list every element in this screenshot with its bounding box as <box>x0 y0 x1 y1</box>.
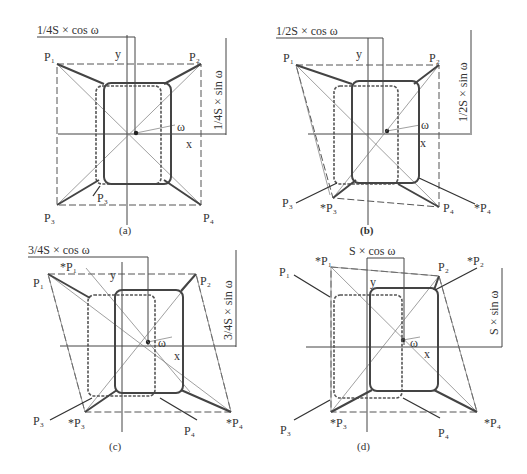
panel-caption: (b) <box>360 224 374 237</box>
y-axis-label: y <box>110 268 116 282</box>
moved-point-label-p3: *P₃ <box>320 201 337 215</box>
angle-label: ω <box>177 120 185 134</box>
y-axis-label: y <box>115 47 121 61</box>
panel-caption: (d) <box>357 440 370 453</box>
diagram-canvas: 1/4S × cos ω 1/4S × sin ω y x ω P₁ P₂ P₃… <box>0 0 527 474</box>
panel-d: S × cos ω S × sin ω y x ω P₁ P₂ P₃ P₄ *P… <box>279 244 502 453</box>
center-point <box>134 131 138 135</box>
point-label-p4: P₄ <box>438 426 449 440</box>
angle-label: ω <box>421 118 429 132</box>
dim-label-vertical: 1/4S × sin ω <box>211 70 225 130</box>
point-label-p3: P₃ <box>280 423 291 437</box>
y-axis-label: y <box>370 275 376 289</box>
dim-label-horizontal: 1/4S × cos ω <box>37 23 99 37</box>
moved-point-label-p4: *P₄ <box>474 201 491 215</box>
angle-ray <box>136 125 175 133</box>
point-label-p1: P₁ <box>283 51 294 65</box>
original-edge <box>296 65 330 195</box>
point-label-p4: P₄ <box>203 211 214 225</box>
moved-point-label-p2: *P₂ <box>467 254 484 268</box>
point-label-p4: P₄ <box>184 424 195 438</box>
x-axis-label: x <box>420 136 426 150</box>
x-axis-label: x <box>186 137 192 151</box>
moved-point-label-p4: *P₄ <box>484 416 501 430</box>
top-edge <box>331 267 439 276</box>
dim-label-vertical: 3/4S × sin ω <box>221 280 235 340</box>
point-label-p2: P₂ <box>189 50 200 64</box>
point-label-p3: P₃ <box>44 211 55 225</box>
dim-label-vertical: S × sin ω <box>487 291 501 335</box>
point-label-p3: P₃ <box>282 196 293 210</box>
diagonal-moved <box>86 268 190 392</box>
point-label-p2: P₂ <box>200 274 211 288</box>
dim-label-horizontal: 3/4S × cos ω <box>28 243 90 257</box>
point-label-p2: P₂ <box>438 260 449 274</box>
moved-point-label-p1: *P₁ <box>315 254 332 268</box>
panel-caption: (c) <box>109 440 122 453</box>
point-label-p1: P₁ <box>279 265 290 279</box>
moved-point-label-p4: *P₄ <box>226 416 243 430</box>
x-axis-label: x <box>174 349 180 363</box>
point-label-p1: P₁ <box>44 50 55 64</box>
dim-label-horizontal: 1/2S × cos ω <box>276 24 338 38</box>
point-label-p2: P₂ <box>429 51 440 65</box>
dim-label-horizontal: S × cos ω <box>349 244 395 258</box>
moved-point-label-p3: *P₃ <box>68 416 85 430</box>
panel-a: 1/4S × cos ω 1/4S × sin ω y x ω P₁ P₂ P₃… <box>37 23 226 237</box>
panel-caption: (a) <box>119 224 132 237</box>
point-label-p3: P₃ <box>33 414 44 428</box>
point-label-p1: P₁ <box>33 276 44 290</box>
dim-label-vertical: 1/2S × sin ω <box>456 62 470 122</box>
angle-ray <box>387 125 420 131</box>
moved-point-label-p3: *P₃ <box>330 416 347 430</box>
panel-c: 3/4S × cos ω 3/4S × sin ω y x ω P₁ P₂ P₃… <box>28 243 243 453</box>
x-axis-label: x <box>424 347 430 361</box>
angle-label: ω <box>158 336 166 350</box>
angle-label: ω <box>410 336 418 350</box>
point-label-p4: P₄ <box>443 201 454 215</box>
y-axis-label: y <box>356 47 362 61</box>
moved-point-label-p1: *P₁ <box>60 260 77 274</box>
panel-b: 1/2S × cos ω 1/2S × sin ω y x ω P₁ P₂ P₃… <box>276 24 491 237</box>
moved-point-label: P₃ <box>97 191 108 205</box>
